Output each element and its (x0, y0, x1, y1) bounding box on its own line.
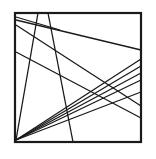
line-figure-container (0, 0, 156, 159)
line-figure-canvas (0, 0, 156, 159)
